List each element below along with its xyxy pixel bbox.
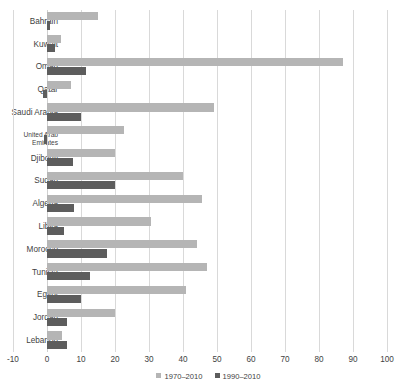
bar-saudi-arabia-1 <box>47 113 81 121</box>
bar-group <box>13 147 387 170</box>
bar-group <box>13 284 387 307</box>
x-tick-label: 70 <box>280 355 289 364</box>
bar-group <box>13 261 387 284</box>
bar-group <box>13 78 387 101</box>
bar-sudan-1 <box>47 181 115 189</box>
gridline-100 <box>387 10 388 352</box>
x-tick-label: 90 <box>348 355 357 364</box>
bar-kuwait-0 <box>47 35 61 43</box>
bar-sudan-0 <box>47 172 183 180</box>
bar-jordan-0 <box>47 309 115 317</box>
chart-legend: 1970–20101990–2010 <box>0 371 417 381</box>
x-tick-label: 40 <box>178 355 187 364</box>
legend-label: 1990–2010 <box>223 372 261 381</box>
x-tick-label: 0 <box>45 355 50 364</box>
x-tick-label: 10 <box>76 355 85 364</box>
x-tick-label: 100 <box>380 355 394 364</box>
bar-group <box>13 215 387 238</box>
bar-group <box>13 101 387 124</box>
bar-egypt-0 <box>47 286 186 294</box>
bar-djibouti-0 <box>47 149 115 157</box>
bar-kuwait-1 <box>47 44 55 52</box>
legend-label: 1970–2010 <box>164 372 202 381</box>
bar-lebanon-1 <box>47 341 67 349</box>
bar-oman-1 <box>47 67 86 75</box>
bar-saudi-arabia-0 <box>47 103 214 111</box>
bar-group <box>13 192 387 215</box>
x-tick-label: 30 <box>144 355 153 364</box>
bar-libya-0 <box>47 217 151 225</box>
bar-libya-1 <box>47 227 64 235</box>
bar-group <box>13 124 387 147</box>
bar-group <box>13 10 387 33</box>
bar-morocco-0 <box>47 240 197 248</box>
bar-united-arab-emirates-0 <box>47 126 124 134</box>
legend-item[interactable]: 1970–2010 <box>156 371 202 381</box>
bar-algeria-0 <box>47 195 202 203</box>
bar-tunisia-1 <box>47 272 90 280</box>
bar-lebanon-0 <box>47 331 62 339</box>
legend-swatch-icon <box>215 373 220 378</box>
bar-chart: BahrainKuwaitOmanQatarSaudi ArabiaUnited… <box>0 0 417 387</box>
x-tick-label: 50 <box>212 355 221 364</box>
x-tick-label: 60 <box>246 355 255 364</box>
bar-djibouti-1 <box>47 158 73 166</box>
bar-bahrain-1 <box>47 21 50 29</box>
bar-bahrain-0 <box>47 12 98 20</box>
bar-group <box>13 170 387 193</box>
legend-item[interactable]: 1990–2010 <box>215 371 261 381</box>
bar-group <box>13 306 387 329</box>
bar-group <box>13 329 387 352</box>
x-tick-label: 80 <box>314 355 323 364</box>
bar-algeria-1 <box>47 204 74 212</box>
bar-qatar-0 <box>47 81 71 89</box>
bar-jordan-1 <box>47 318 67 326</box>
plot-area <box>13 10 387 352</box>
bar-qatar-1 <box>43 90 47 98</box>
bar-group <box>13 56 387 79</box>
x-tick-label: 20 <box>110 355 119 364</box>
x-axis-tick-labels: -100102030405060708090100 <box>0 355 417 369</box>
bar-tunisia-0 <box>47 263 207 271</box>
bar-egypt-1 <box>47 295 81 303</box>
bar-group <box>13 33 387 56</box>
bar-united-arab-emirates-1 <box>44 135 47 143</box>
bar-group <box>13 238 387 261</box>
legend-swatch-icon <box>156 373 161 378</box>
x-tick-label: -10 <box>7 355 19 364</box>
bar-oman-0 <box>47 58 343 66</box>
bar-morocco-1 <box>47 249 107 257</box>
